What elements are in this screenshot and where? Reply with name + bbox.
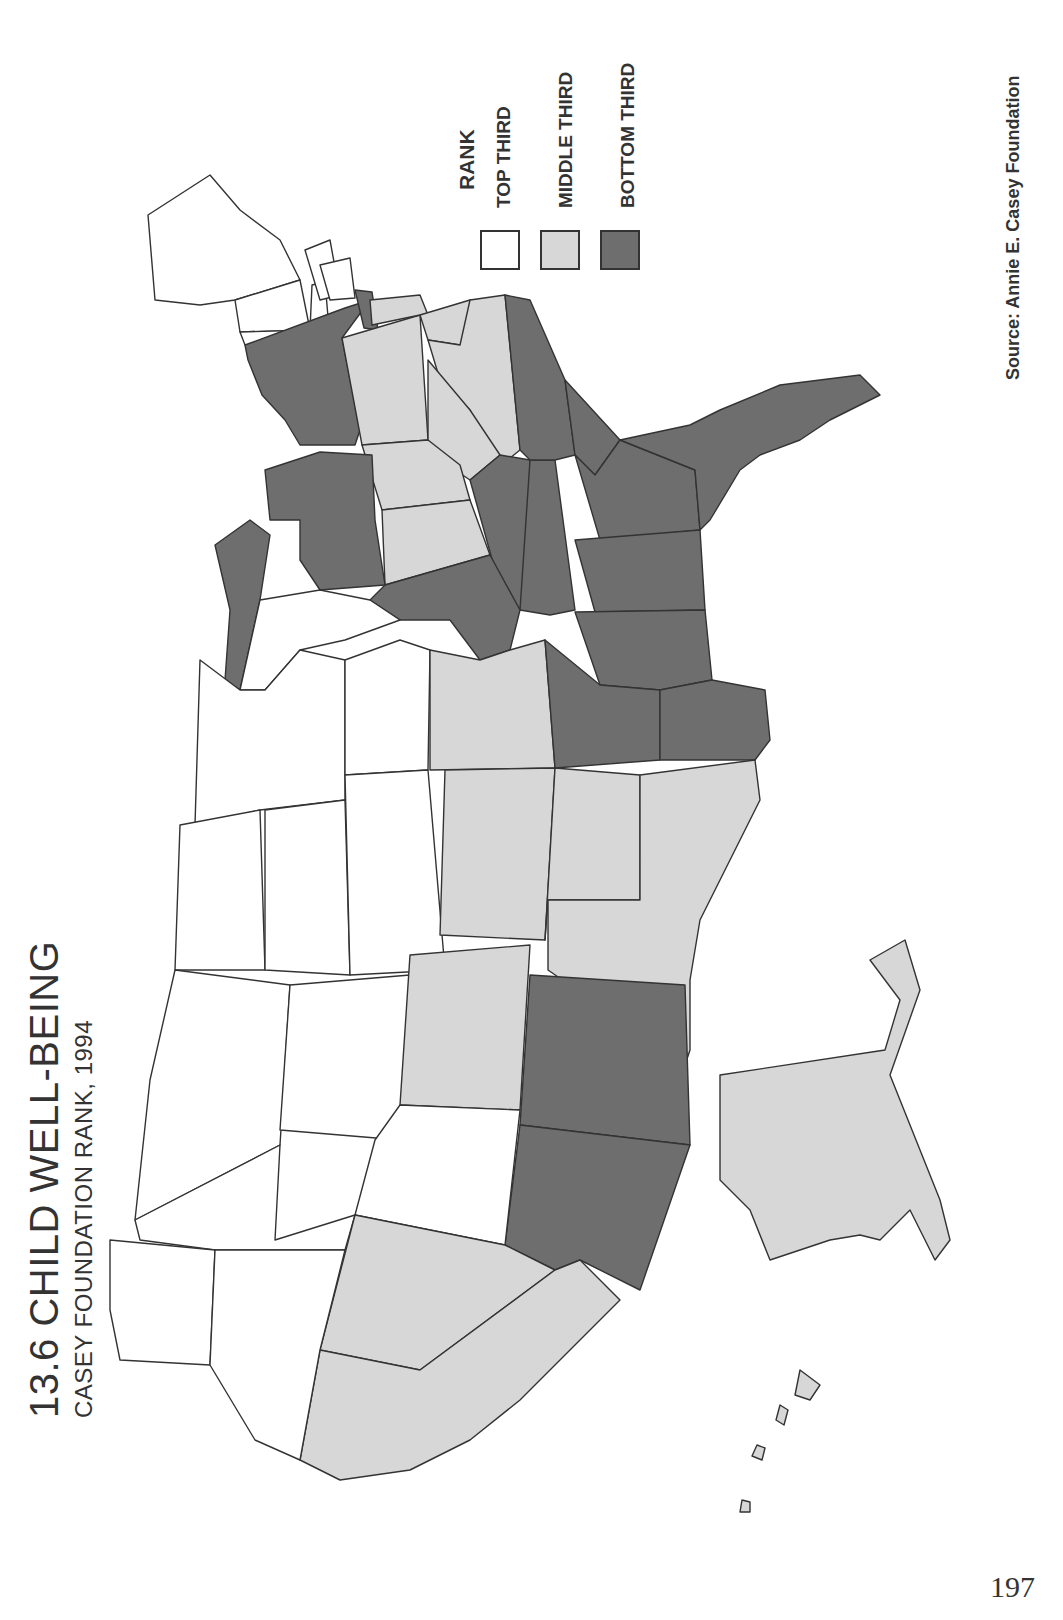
source-credit: Source: Annie E. Casey Foundation	[1003, 76, 1024, 380]
legend-title: RANK	[455, 129, 479, 190]
state-north-dakota	[175, 810, 265, 970]
state-missouri	[430, 640, 555, 770]
state-mississippi	[575, 610, 712, 690]
legend-label-top-third: TOP THIRD	[493, 106, 515, 208]
state-hawaii-big	[795, 1370, 820, 1400]
state-kansas	[440, 768, 555, 940]
state-hawaii-maui	[776, 1405, 788, 1425]
page-number: 197	[990, 1570, 1035, 1604]
state-new-mexico	[520, 975, 690, 1145]
state-nebraska	[345, 770, 445, 975]
state-louisiana	[660, 680, 770, 760]
legend-label-bottom-third: BOTTOM THIRD	[617, 63, 639, 208]
legend-label-middle-third: MIDDLE THIRD	[555, 72, 577, 208]
page-subtitle: CASEY FOUNDATION RANK, 1994	[70, 1020, 98, 1418]
legend-swatch-top-third	[480, 230, 520, 270]
page-title: 13.6 CHILD WELL-BEING	[22, 941, 67, 1418]
state-alabama	[575, 530, 705, 612]
state-maine	[148, 175, 300, 305]
state-colorado	[400, 945, 530, 1110]
legend-swatch-middle-third	[540, 230, 580, 270]
state-michigan	[265, 452, 385, 590]
state-hawaii-oahu	[752, 1445, 765, 1460]
state-alaska	[720, 940, 950, 1260]
state-iowa	[345, 640, 430, 775]
state-hawaii-kauai	[740, 1500, 750, 1512]
legend-swatch-bottom-third	[600, 230, 640, 270]
state-wyoming	[280, 975, 410, 1140]
us-choropleth-map	[0, 0, 1063, 1620]
state-south-dakota	[265, 800, 350, 975]
state-tennessee	[520, 460, 575, 615]
state-washington	[110, 1240, 215, 1365]
